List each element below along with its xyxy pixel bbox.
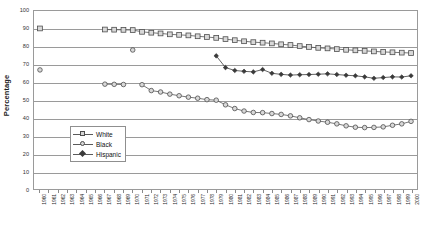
x-tick-mark [272,190,273,193]
data-point-circle [279,112,284,117]
data-point-square [186,33,191,38]
legend-marker-glyph [80,141,85,146]
x-tick-mark [76,190,77,193]
data-point-square [158,31,163,36]
x-tick-label: 1985 [274,194,280,205]
legend-marker-square-open-icon [73,130,93,139]
x-tick-label: 1961 [51,194,57,205]
series-black [38,48,414,130]
line-chart: Percentage 1009080706050403020100 196019… [0,0,421,225]
x-tick-label: 1975 [181,194,187,205]
x-tick-mark [244,190,245,193]
data-point-square [372,49,377,54]
x-tick-label: 1995 [368,194,374,205]
data-point-diamond [344,73,349,78]
data-point-circle [103,82,108,87]
data-point-diamond [390,75,395,80]
x-tick-mark [356,190,357,193]
data-point-circle [205,97,210,102]
data-point-square [103,27,108,32]
data-point-diamond [316,72,321,77]
data-point-diamond [399,75,404,80]
data-point-circle [121,82,126,87]
y-tick-label: 90 [23,25,29,31]
y-tick-label: 20 [23,151,29,157]
y-tick-label: 100 [20,7,29,13]
x-tick-mark [309,190,310,193]
data-point-circle [399,122,404,127]
y-tick-label: 10 [23,169,29,175]
y-axis-tick-labels: 1009080706050403020100 [13,10,31,190]
data-point-square [242,39,247,44]
x-tick-label: 1990 [321,194,327,205]
x-tick-label: 1993 [349,194,355,205]
x-tick-label: 1991 [330,194,336,205]
data-point-square [38,26,43,31]
legend-label: Hispanic [93,151,121,158]
x-tick-mark [39,190,40,193]
data-point-circle [186,95,191,100]
x-tick-mark [142,190,143,193]
x-tick-mark [253,190,254,193]
data-point-circle [158,90,163,95]
x-tick-label: 1982 [246,194,252,205]
x-tick-mark [58,190,59,193]
x-tick-label: 1964 [79,194,85,205]
x-tick-label: 1984 [265,194,271,205]
data-point-square [390,50,395,55]
data-point-square [381,50,386,55]
x-tick-mark [132,190,133,193]
data-point-circle [381,125,386,130]
data-point-square [260,40,265,45]
data-point-circle [251,110,256,115]
x-tick-label: 1988 [302,194,308,205]
x-tick-label: 1981 [237,194,243,205]
series-hispanic [214,54,413,81]
data-point-circle [112,82,117,87]
data-point-square [130,28,135,33]
data-point-diamond [325,72,330,77]
x-tick-label: 1966 [97,194,103,205]
y-axis-title-label: Percentage [3,74,12,115]
x-tick-label: 1978 [209,194,215,205]
data-point-diamond [409,74,414,79]
data-point-circle [335,122,340,127]
x-tick-mark [207,190,208,193]
y-tick-label: 80 [23,43,29,49]
y-axis-title: Percentage [0,0,14,190]
data-point-diamond [270,71,275,76]
x-tick-label: 1974 [172,194,178,205]
data-point-circle [260,110,265,115]
x-tick-label: 2000 [414,194,420,205]
legend-item-white[interactable]: White [73,129,121,139]
data-point-square [177,32,182,37]
x-tick-label: 1999 [405,194,411,205]
data-point-square [223,37,228,42]
data-point-square [121,27,126,32]
x-tick-mark [67,190,68,193]
data-point-square [353,48,358,53]
x-tick-mark [263,190,264,193]
data-point-circle [242,109,247,114]
data-point-diamond [279,72,284,77]
x-tick-mark [412,190,413,193]
x-tick-mark [160,190,161,193]
data-point-diamond [372,76,377,81]
x-tick-label: 1992 [340,194,346,205]
legend-marker-glyph [80,131,85,136]
x-tick-label: 1994 [358,194,364,205]
x-tick-mark [179,190,180,193]
data-point-diamond [335,72,340,77]
data-point-square [279,42,284,47]
x-tick-mark [104,190,105,193]
x-tick-label: 1970 [134,194,140,205]
data-point-square [195,34,200,39]
data-point-circle [288,114,293,119]
x-tick-mark [123,190,124,193]
data-point-circle [38,68,43,73]
data-point-circle [297,116,302,121]
legend-item-black[interactable]: Black [73,139,121,149]
legend-item-hispanic[interactable]: Hispanic [73,149,121,159]
legend-marker-circle-open-icon [73,140,93,149]
data-point-circle [316,119,321,124]
